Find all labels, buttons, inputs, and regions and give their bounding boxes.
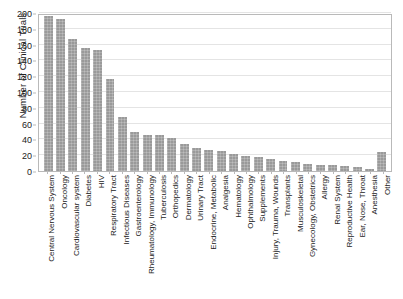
bar-slot <box>190 15 202 171</box>
x-tick-slot: Allergy <box>314 173 326 299</box>
x-tick-mark <box>196 171 197 174</box>
x-tick-mark <box>97 171 98 174</box>
bar-slot <box>141 15 153 171</box>
x-tick-slot: Renal System <box>327 173 339 299</box>
x-tick-mark <box>345 171 346 174</box>
bar-slot <box>252 15 264 171</box>
x-tick-slot: Rheumatology, Immunology <box>140 173 152 299</box>
bar[interactable] <box>229 154 238 171</box>
bar-slot <box>67 15 79 171</box>
x-tick-slot: Infectious Diseases <box>116 173 128 299</box>
y-tick-mark <box>33 61 36 62</box>
y-tick-mark <box>33 140 36 141</box>
plot-area <box>38 14 392 172</box>
x-tick-mark <box>109 171 110 174</box>
bar[interactable] <box>167 138 176 171</box>
bar[interactable] <box>118 117 127 171</box>
x-tick-mark <box>171 171 172 174</box>
y-tick-label: 20 <box>22 151 32 161</box>
x-tick-mark <box>383 171 384 174</box>
bar[interactable] <box>56 19 65 171</box>
y-tick-label: 120 <box>17 72 32 82</box>
x-tick-slot: Dermatology <box>178 173 190 299</box>
bar-series <box>39 15 391 171</box>
x-tick-slot: Other <box>376 173 388 299</box>
bar[interactable] <box>303 164 312 171</box>
gridline <box>39 12 391 13</box>
bar[interactable] <box>180 144 189 171</box>
x-tick-slot: Supplements <box>252 173 264 299</box>
x-tick-mark <box>320 171 321 174</box>
y-tick-label: 0 <box>27 167 32 177</box>
bar[interactable] <box>143 135 152 171</box>
bar-slot <box>326 15 338 171</box>
x-tick-mark <box>159 171 160 174</box>
x-tick-mark <box>72 171 73 174</box>
x-tick-mark <box>296 171 297 174</box>
bar[interactable] <box>93 50 102 171</box>
bar[interactable] <box>291 162 300 171</box>
x-tick-slot: Gastroenterology <box>128 173 140 299</box>
bar[interactable] <box>266 159 275 171</box>
x-tick-slot: Injury, Trauma, Wounds <box>265 173 277 299</box>
x-tick-mark <box>60 171 61 174</box>
x-tick-slot: Transplants <box>277 173 289 299</box>
x-tick-mark <box>122 171 123 174</box>
x-tick-slot: Ear, Nose, Throat <box>352 173 364 299</box>
y-tick-mark <box>33 156 36 157</box>
bar-slot <box>351 15 363 171</box>
bar-slot <box>240 15 252 171</box>
bar[interactable] <box>217 151 226 171</box>
y-tick-label: 140 <box>17 56 32 66</box>
bar[interactable] <box>155 135 164 171</box>
bar-slot <box>104 15 116 171</box>
bar-slot <box>178 15 190 171</box>
y-tick-mark <box>33 93 36 94</box>
x-tick-mark <box>283 171 284 174</box>
bar-slot <box>129 15 141 171</box>
x-tick-mark <box>358 171 359 174</box>
y-tick-mark <box>33 14 36 15</box>
bar[interactable] <box>130 132 139 171</box>
bar[interactable] <box>279 161 288 171</box>
bar[interactable] <box>68 39 77 171</box>
x-tick-slot: Endocrine, Metabolic <box>202 173 214 299</box>
x-tick-slot: Diabetes <box>78 173 90 299</box>
bar[interactable] <box>106 79 115 171</box>
x-tick-slot: Cardiovascular system <box>66 173 78 299</box>
x-tick-mark <box>234 171 235 174</box>
y-tick-mark <box>33 45 36 46</box>
x-tick-mark <box>246 171 247 174</box>
x-tick-slot: Reproductive Health <box>339 173 351 299</box>
y-tick-label: 200 <box>17 9 32 19</box>
bar-slot <box>277 15 289 171</box>
bar[interactable] <box>81 48 90 171</box>
bar[interactable] <box>254 157 263 171</box>
x-tick-slot: Musculoskeletal <box>289 173 301 299</box>
bar[interactable] <box>192 148 201 171</box>
bar-slot <box>302 15 314 171</box>
y-tick-label: 40 <box>22 135 32 145</box>
x-tick-mark <box>184 171 185 174</box>
x-tick-mark <box>221 171 222 174</box>
y-tick-label: 180 <box>17 25 32 35</box>
bar-slot <box>42 15 54 171</box>
bar-slot <box>339 15 351 171</box>
x-tick-slot: Tuberculosis <box>153 173 165 299</box>
x-axis-ticks: Central Nervous SystemOncologyCardiovasc… <box>38 173 392 299</box>
bar[interactable] <box>377 152 386 171</box>
x-tick-label: Other <box>383 175 392 195</box>
bar[interactable] <box>44 16 53 171</box>
x-tick-slot: Respiratory Tract <box>103 173 115 299</box>
y-axis-ticks: 020406080100120140160180200 <box>0 14 36 172</box>
x-tick-slot: Hematology <box>227 173 239 299</box>
bar-slot <box>215 15 227 171</box>
y-tick-mark <box>33 77 36 78</box>
bar-slot <box>227 15 239 171</box>
bar-slot <box>54 15 66 171</box>
bar-slot <box>91 15 103 171</box>
bar-slot <box>116 15 128 171</box>
bar[interactable] <box>241 156 250 171</box>
y-tick-label: 60 <box>22 120 32 130</box>
bar[interactable] <box>204 150 213 171</box>
